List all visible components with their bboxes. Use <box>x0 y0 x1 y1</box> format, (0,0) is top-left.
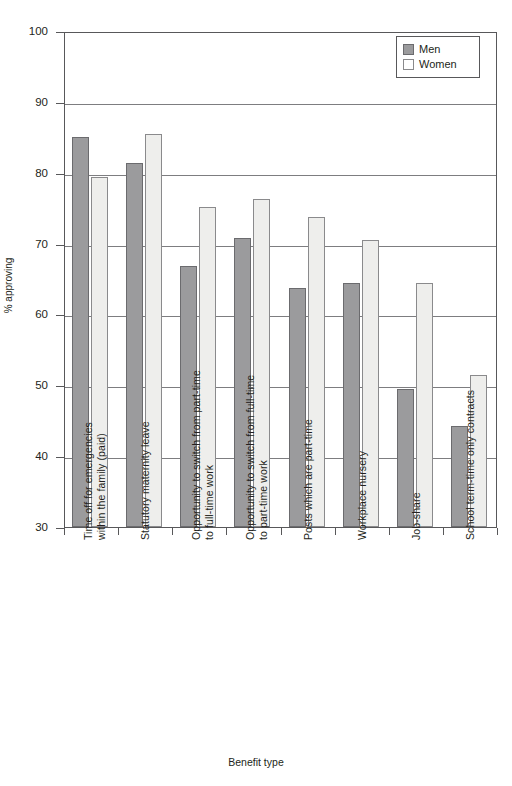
bar-chart: % approving 10090807060504030 Time off f… <box>0 0 512 786</box>
x-axis-title: Benefit type <box>0 756 512 768</box>
x-axis-tick <box>335 528 336 535</box>
x-axis-tick <box>281 528 282 535</box>
y-axis-tick-label: 50 <box>0 380 48 392</box>
legend-item-women: Women <box>403 57 473 72</box>
y-axis-tick <box>56 32 64 33</box>
bar-group <box>397 33 433 527</box>
y-axis-tick-label: 70 <box>0 239 48 251</box>
y-axis-tick <box>56 386 64 387</box>
y-axis-tick <box>56 528 64 529</box>
x-axis-label-8: School term-time only contracts <box>464 390 477 540</box>
bar-women <box>416 283 433 527</box>
women-swatch-icon <box>403 59 414 70</box>
men-swatch-icon <box>403 44 414 55</box>
legend: Men Women <box>396 36 480 78</box>
x-axis-tick <box>443 528 444 535</box>
x-axis-label-5: Posts which are part-time <box>302 419 315 540</box>
y-axis-tick <box>56 103 64 104</box>
x-axis-label-2: Statutory maternity leave <box>139 421 152 540</box>
legend-label-women: Women <box>419 59 457 70</box>
y-axis-tick <box>56 315 64 316</box>
x-axis-tick <box>118 528 119 535</box>
legend-label-men: Men <box>419 44 440 55</box>
y-axis-tick <box>56 245 64 246</box>
y-axis-tick-label: 30 <box>0 522 48 534</box>
y-axis-tick <box>56 457 64 458</box>
y-axis-tick-label: 100 <box>0 26 48 38</box>
plot-area <box>64 32 497 528</box>
legend-item-men: Men <box>403 42 473 57</box>
x-axis-label-4: Opportunity to switch from full-time to … <box>244 375 269 540</box>
x-axis-tick <box>497 528 498 535</box>
y-axis-tick <box>56 174 64 175</box>
x-axis-label-7: Job-share <box>410 492 423 540</box>
y-axis-tick-label: 90 <box>0 97 48 109</box>
x-axis-label-3: Opportunity to switch from part-time to … <box>190 370 215 540</box>
y-axis-tick-label: 40 <box>0 451 48 463</box>
x-axis-tick <box>389 528 390 535</box>
x-axis-label-6: Workplace nursery <box>356 451 369 540</box>
x-axis-tick <box>226 528 227 535</box>
y-axis-tick-label: 80 <box>0 168 48 180</box>
x-axis-label-1: Time off for emergencies within the fami… <box>82 422 107 540</box>
x-axis-tick <box>172 528 173 535</box>
x-axis-tick <box>64 528 65 535</box>
y-axis-tick-label: 60 <box>0 309 48 321</box>
